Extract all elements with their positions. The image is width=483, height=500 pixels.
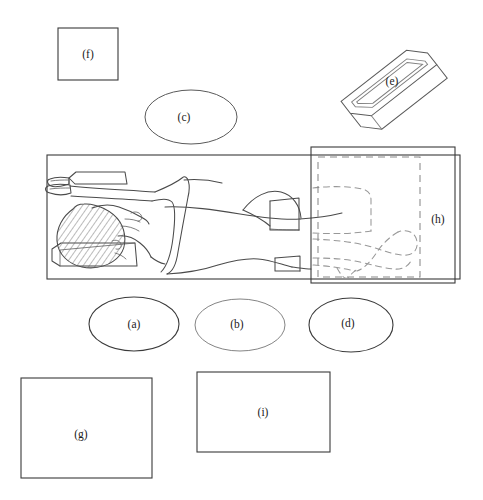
shape-b: (b) — [195, 299, 285, 351]
figure-canvas: (f) (c) (e) — [0, 0, 483, 500]
neck-contour — [151, 257, 165, 264]
rect-h-dashed-inset — [318, 157, 420, 277]
label-g: (g) — [74, 428, 88, 441]
hatched-hair — [57, 204, 125, 268]
knee-block-top — [270, 198, 299, 230]
label-a: (a) — [128, 318, 141, 331]
shape-e: (e) — [341, 41, 447, 138]
lower-body-contour — [167, 259, 292, 274]
hand-rest-slab — [69, 172, 127, 184]
knee-block-left — [270, 201, 299, 230]
dashed-alternate-leg-position — [313, 187, 417, 279]
dashed-thigh-base — [313, 231, 371, 234]
label-d: (d) — [341, 317, 355, 330]
figure-svg: (f) (c) (e) — [0, 0, 483, 500]
supine-patient-illustration — [46, 172, 418, 278]
dashed-thigh-top — [313, 187, 371, 231]
label-h: (h) — [431, 213, 445, 226]
finger-crease-2 — [50, 188, 70, 189]
dashed-calf-upper — [313, 231, 417, 256]
shape-d: (d) — [309, 298, 393, 352]
shoulder-top — [184, 180, 222, 183]
label-b: (b) — [230, 318, 244, 331]
lower-leg-contour — [292, 267, 311, 269]
label-i: (i) — [258, 406, 269, 419]
dashed-ankle-line — [313, 265, 355, 271]
arm-inner-contour — [152, 199, 175, 272]
dashed-foot-upper — [357, 232, 398, 271]
shape-a: (a) — [89, 297, 179, 351]
upper-arm-top-edge — [70, 186, 155, 192]
arm-outer-contour — [155, 177, 189, 274]
label-e: (e) — [386, 75, 399, 88]
shape-c: (c) — [145, 90, 237, 144]
label-c: (c) — [178, 111, 191, 124]
foot-block-left — [275, 258, 300, 271]
shape-g: (g) — [21, 378, 152, 478]
shape-f: (f) — [58, 28, 118, 80]
upper-arm-bottom-edge — [71, 196, 152, 201]
box-e-bevel-edge — [371, 116, 381, 129]
finger-crease-1 — [51, 180, 68, 181]
shape-i: (i) — [197, 372, 330, 452]
label-f: (f) — [82, 48, 94, 61]
eye-line — [125, 219, 140, 222]
ellipse-c — [145, 90, 237, 144]
hip-top-contour — [300, 213, 342, 219]
dashed-calf-lower — [313, 258, 412, 269]
